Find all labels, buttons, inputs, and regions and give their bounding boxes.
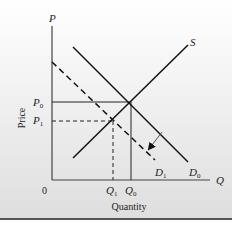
origin-label: 0 [42, 185, 47, 196]
x-axis-label: Q [216, 174, 224, 186]
demand-d0-label: D0 [188, 166, 201, 180]
p0-label: P0 [32, 96, 44, 110]
demand-d1-label: D1 [154, 166, 167, 180]
q0-label: Q0 [125, 184, 137, 198]
supply-label: S [190, 36, 196, 48]
p1-label: P1 [32, 114, 44, 128]
y-axis-title: Price [16, 107, 27, 128]
x-axis-title: Quantity [112, 201, 147, 212]
demand-shift-arrow [149, 132, 162, 149]
q1-label: Q1 [106, 184, 118, 198]
supply-demand-diagram: P Q 0 Price Quantity S D0 D1 P0 P1 Q1 Q0 [0, 0, 232, 225]
y-axis-label: P [48, 12, 56, 24]
